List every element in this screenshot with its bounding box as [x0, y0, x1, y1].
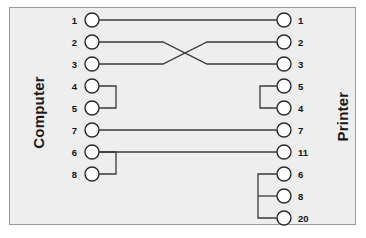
- pin-label-printer-8: 8: [298, 192, 316, 202]
- pin-label-printer-6: 6: [298, 170, 316, 180]
- pin-label-computer-1: 1: [61, 16, 77, 26]
- connector-printer-8[interactable]: [277, 189, 291, 203]
- pin-label-computer-7: 7: [61, 126, 77, 136]
- connector-computer-6[interactable]: [85, 145, 99, 159]
- connector-printer-3[interactable]: [277, 57, 291, 71]
- pin-label-computer-3: 3: [61, 60, 77, 70]
- pin-label-printer-11: 11: [298, 148, 316, 158]
- pin-label-printer-7: 7: [298, 126, 316, 136]
- pin-label-computer-4: 4: [61, 82, 77, 92]
- connector-printer-4[interactable]: [277, 101, 291, 115]
- connector-printer-20[interactable]: [277, 211, 291, 225]
- wiring-diagram-screenshot: 1 2 3 4 5 7 6 8 1 2 3 5 4 7 11 6 8 20 Co…: [0, 0, 366, 238]
- connector-computer-7[interactable]: [85, 123, 99, 137]
- connector-printer-2[interactable]: [277, 35, 291, 49]
- pin-label-printer-5: 5: [298, 82, 316, 92]
- pin-label-computer-2: 2: [61, 38, 77, 48]
- connector-printer-6[interactable]: [277, 167, 291, 181]
- connector-printer-7[interactable]: [277, 123, 291, 137]
- connector-computer-4[interactable]: [85, 79, 99, 93]
- pin-label-printer-3: 3: [298, 60, 316, 70]
- connector-printer-5[interactable]: [277, 79, 291, 93]
- jumper-computer-6-8: [99, 152, 116, 174]
- pin-label-computer-6: 6: [61, 148, 77, 158]
- pin-label-computer-8: 8: [61, 170, 77, 180]
- jumper-computer-4-5: [99, 86, 116, 108]
- wire-computer2-printer3: [99, 42, 277, 64]
- pin-label-printer-1: 1: [298, 16, 316, 26]
- jumper-printer-5-4: [260, 86, 277, 108]
- side-label-printer: Printer: [334, 77, 351, 157]
- connector-printer-1[interactable]: [277, 13, 291, 27]
- pin-label-printer-2: 2: [298, 38, 316, 48]
- connector-computer-8[interactable]: [85, 167, 99, 181]
- wiring-diagram-canvas: [0, 0, 366, 238]
- connector-computer-1[interactable]: [85, 13, 99, 27]
- connector-computer-5[interactable]: [85, 101, 99, 115]
- pin-label-printer-4: 4: [298, 104, 316, 114]
- connector-computer-2[interactable]: [85, 35, 99, 49]
- pin-label-computer-5: 5: [61, 104, 77, 114]
- connector-computer-3[interactable]: [85, 57, 99, 71]
- wire-computer3-printer2: [99, 42, 277, 64]
- side-label-computer: Computer: [30, 73, 47, 153]
- pin-label-printer-20: 20: [298, 214, 316, 224]
- connector-printer-11[interactable]: [277, 145, 291, 159]
